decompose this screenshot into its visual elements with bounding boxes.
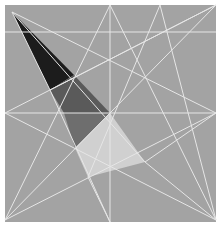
geometric-diagram: [0, 0, 221, 231]
